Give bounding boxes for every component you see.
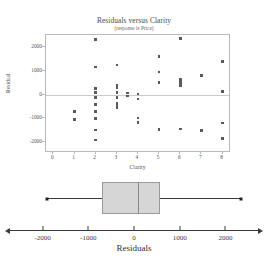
scatter-point [126,95,129,98]
x-axis-tick-label: 1 [72,154,75,160]
scatter-point [116,96,119,99]
scatter-point [158,55,161,58]
y-axis-tick-mark [42,141,45,142]
scatter-point [137,98,140,101]
scatter-point [221,60,224,63]
x-axis-tick-mark [158,151,159,154]
scatter-point [137,117,140,120]
scatter-point [200,74,203,77]
scatter-plot-area [45,34,230,152]
boxplot-whisker-cap-low [46,197,49,200]
axis-arrow-right-icon [258,228,263,234]
y-axis-title: Residual [5,73,11,93]
scatter-point [94,87,97,90]
x-axis-tick-label: 5 [157,154,160,160]
y-axis-tick-label: 1000 [31,67,42,73]
scatter-point [73,110,76,113]
boxplot-axis-tick-label: 1000 [173,234,187,242]
boxplot-axis-tick-label: -2000 [34,234,50,242]
scatter-point [94,117,97,120]
scatter-point [116,86,119,89]
x-axis-tick-label: 3 [114,154,117,160]
scatter-chart-title: Residuals versus Clarity [0,16,268,25]
x-axis-tick-mark [137,151,138,154]
x-axis-tick-label: 0 [51,154,54,160]
scatter-point [94,66,97,69]
scatter-point [94,129,97,132]
boxplot-box [102,182,160,214]
scatter-point [221,90,224,93]
scatter-point [116,91,119,94]
x-axis-tick-label: 2 [93,154,96,160]
x-axis-tick-mark [116,151,117,154]
scatter-point [179,84,182,87]
x-axis-tick-label: 4 [136,154,139,160]
scatter-chart-subtitle: (response is Price) [0,25,268,31]
y-axis-tick-mark [42,117,45,118]
scatter-point [94,110,97,113]
scatter-point [73,118,76,121]
y-axis-tick-mark [42,70,45,71]
scatter-point [158,81,161,84]
scatter-point [116,64,119,67]
x-axis-title: Clarity [45,164,230,170]
scatter-point [158,128,161,131]
scatter-point [158,71,161,74]
scatter-point [94,38,97,41]
y-axis-tick-label: -2000 [29,138,42,144]
boxplot-axis-tick-label: 0 [132,234,136,242]
axis-arrow-left-icon [5,228,10,234]
boxplot-axis-title: Residuals [0,243,268,253]
boxplot-axis-tick-mark [134,226,135,231]
x-axis-tick-mark [95,151,96,154]
boxplot-median-line [138,182,139,214]
boxplot-axis-tick-mark [88,226,89,231]
scatter-point [137,121,140,124]
scatter-point [94,96,97,99]
scatter-point [137,93,140,96]
boxplot-axis-tick-mark [225,226,226,231]
scatter-point [179,37,182,40]
x-axis-ticks: 012345678 [45,154,230,164]
boxplot-axis-tick-label: -1000 [80,234,96,242]
boxplot-axis-tick-label: 2000 [218,234,232,242]
scatter-point [94,91,97,94]
y-axis-tick-label: 2000 [31,43,42,49]
scatter-point [200,129,203,132]
boxplot-axis-tick-mark [42,226,43,231]
x-axis-tick-mark [52,151,53,154]
x-axis-tick-label: 7 [199,154,202,160]
boxplot-axis-tick-mark [179,226,180,231]
x-axis-tick-label: 8 [220,154,223,160]
scatter-point [116,107,119,110]
scatter-plot-panel: Residuals versus Clarity (response is Pr… [0,0,268,176]
scatter-point [179,128,182,131]
boxplot-panel: -2000-1000010002000 Residuals [0,176,268,256]
y-axis-tick-mark [42,46,45,47]
x-axis-tick-label: 6 [178,154,181,160]
scatter-point [94,139,97,142]
y-axis-ticks: -2000-1000010002000 [18,34,42,152]
y-axis-tick-label: -1000 [29,114,42,120]
x-axis-tick-mark [179,151,180,154]
scatter-point [94,103,97,106]
x-axis-tick-mark [222,151,223,154]
x-axis-tick-mark [200,151,201,154]
scatter-point [221,137,224,140]
y-axis-tick-mark [42,94,45,95]
boxplot-whisker-cap-high [240,197,243,200]
scatter-point [221,122,224,125]
x-axis-tick-mark [74,151,75,154]
